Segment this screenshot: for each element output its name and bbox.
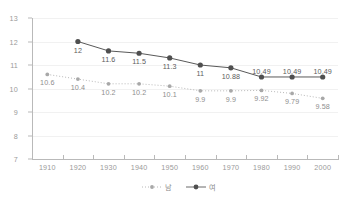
series-line-남 bbox=[47, 74, 322, 98]
gridline bbox=[32, 65, 338, 66]
series-layer bbox=[0, 0, 357, 206]
data-point-marker bbox=[168, 84, 172, 88]
x-tick-label: 1940 bbox=[131, 163, 148, 172]
data-point-label: 9.9 bbox=[195, 95, 205, 104]
data-point-label: 10.88 bbox=[222, 72, 241, 81]
line-chart: 13121110987 1910192019301940195019601970… bbox=[0, 0, 357, 206]
data-point-label: 9.58 bbox=[315, 102, 329, 111]
x-tick-mark bbox=[216, 155, 217, 160]
data-point-label: 11.5 bbox=[132, 57, 146, 66]
data-point-label: 10.49 bbox=[252, 67, 271, 76]
x-tick-mark bbox=[154, 155, 155, 160]
data-point-label: 10.6 bbox=[40, 78, 54, 87]
data-point-marker bbox=[107, 82, 111, 86]
x-tick-mark bbox=[124, 155, 125, 160]
data-point-label: 9.9 bbox=[226, 95, 236, 104]
gridline bbox=[32, 18, 338, 19]
x-tick-mark bbox=[32, 155, 33, 160]
data-point-label: 10.4 bbox=[71, 83, 85, 92]
data-point-marker bbox=[321, 96, 325, 100]
data-point-label: 10.1 bbox=[162, 90, 176, 99]
x-tick-label: 1950 bbox=[161, 163, 178, 172]
data-point-label: 11 bbox=[196, 69, 204, 78]
x-tick-mark bbox=[93, 155, 94, 160]
data-point-marker bbox=[167, 55, 172, 60]
y-tick-label: 8 bbox=[0, 131, 18, 140]
y-tick-label: 7 bbox=[0, 155, 18, 164]
data-point-marker bbox=[45, 73, 49, 77]
data-point-label: 9.79 bbox=[285, 97, 299, 106]
chart-legend: 남 여 bbox=[0, 182, 357, 192]
data-point-marker bbox=[229, 89, 233, 93]
legend-label-male: 남 bbox=[165, 182, 172, 192]
y-tick-mark bbox=[28, 18, 32, 19]
dotted-dot-marker-icon bbox=[142, 183, 162, 191]
x-tick-label: 1970 bbox=[222, 163, 239, 172]
x-tick-label: 2000 bbox=[314, 163, 331, 172]
y-tick-mark bbox=[28, 135, 32, 136]
x-tick-mark bbox=[307, 155, 308, 160]
x-tick-mark bbox=[338, 155, 339, 160]
data-point-marker bbox=[76, 77, 80, 81]
legend-item-female[interactable]: 여 bbox=[186, 182, 216, 192]
data-point-marker bbox=[137, 82, 141, 86]
x-tick-label: 1990 bbox=[284, 163, 301, 172]
y-tick-label: 10 bbox=[0, 84, 18, 93]
legend-label-female: 여 bbox=[209, 182, 216, 192]
y-tick-label: 12 bbox=[0, 37, 18, 46]
x-tick-label: 1920 bbox=[69, 163, 86, 172]
data-point-marker bbox=[198, 89, 202, 93]
data-point-label: 10.2 bbox=[101, 88, 115, 97]
data-point-label: 9.92 bbox=[254, 94, 268, 103]
data-point-marker bbox=[228, 65, 233, 70]
x-tick-label: 1980 bbox=[253, 163, 270, 172]
data-point-label: 11.3 bbox=[163, 62, 177, 71]
y-tick-mark bbox=[28, 88, 32, 89]
y-tick-mark bbox=[28, 65, 32, 66]
legend-item-male[interactable]: 남 bbox=[142, 182, 172, 192]
y-axis-line bbox=[32, 18, 33, 159]
data-point-marker bbox=[290, 92, 294, 96]
data-point-label: 10.2 bbox=[132, 88, 146, 97]
x-tick-mark bbox=[277, 155, 278, 160]
gridline bbox=[32, 136, 338, 137]
solid-dot-marker-icon bbox=[186, 183, 206, 191]
y-tick-mark bbox=[28, 112, 32, 113]
x-tick-mark bbox=[63, 155, 64, 160]
x-tick-mark bbox=[185, 155, 186, 160]
y-tick-label: 13 bbox=[0, 14, 18, 23]
x-tick-label: 1930 bbox=[100, 163, 117, 172]
data-point-label: 10.49 bbox=[283, 67, 302, 76]
data-point-marker bbox=[137, 51, 142, 56]
data-point-marker bbox=[106, 48, 111, 53]
data-point-label: 11.6 bbox=[102, 55, 116, 64]
x-tick-label: 1960 bbox=[192, 163, 209, 172]
y-tick-mark bbox=[28, 41, 32, 42]
y-tick-label: 9 bbox=[0, 108, 18, 117]
data-point-label: 10.49 bbox=[313, 67, 332, 76]
gridline bbox=[32, 42, 338, 43]
gridline bbox=[32, 112, 338, 113]
x-tick-label: 1910 bbox=[39, 163, 56, 172]
x-tick-mark bbox=[246, 155, 247, 160]
y-tick-label: 11 bbox=[0, 61, 18, 70]
data-point-label: 12 bbox=[74, 46, 82, 55]
